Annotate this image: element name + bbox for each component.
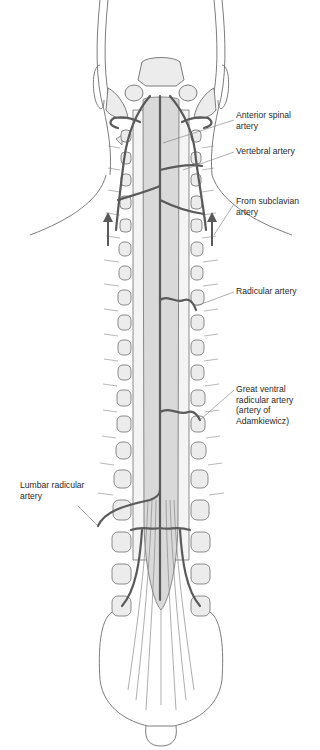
- label-vertebral-artery: Vertebral artery: [236, 146, 295, 157]
- label-anterior-spinal-artery: Anterior spinal artery: [236, 110, 291, 131]
- label-line: artery: [236, 207, 299, 218]
- label-lumbar-radicular-artery: Lumbar radicular artery: [20, 480, 84, 501]
- label-line: (artery of: [236, 405, 293, 416]
- label-line: Radicular artery: [236, 286, 297, 297]
- label-radicular-artery: Radicular artery: [236, 286, 297, 297]
- label-line: Adamkiewicz): [236, 416, 293, 427]
- label-line: artery: [20, 491, 84, 502]
- label-line: Great ventral: [236, 384, 293, 395]
- label-line: Anterior spinal: [236, 110, 291, 121]
- label-line: Lumbar radicular: [20, 480, 84, 491]
- label-line: From subclavian: [236, 196, 299, 207]
- label-line: artery: [236, 121, 291, 132]
- label-great-ventral-radicular-artery: Great ventral radicular artery (artery o…: [236, 384, 293, 426]
- label-line: Vertebral artery: [236, 146, 295, 157]
- label-line: radicular artery: [236, 395, 293, 406]
- label-from-subclavian-artery: From subclavian artery: [236, 196, 299, 217]
